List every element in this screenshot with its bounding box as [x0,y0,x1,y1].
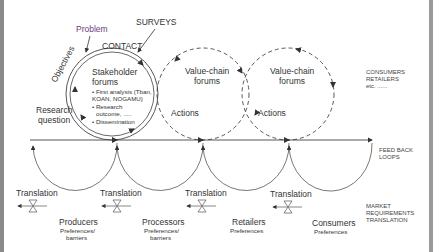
etc-label: etc. ...... [366,83,388,89]
actor-detail: barriers [66,234,87,241]
stakeholder-title-2: forums [92,77,118,87]
translation-label: Translation [16,188,58,198]
translation-valves [18,200,302,213]
actions-label: Actions [171,108,199,118]
value-chain-title-1: Value-chain [185,66,230,76]
actions-label: Actions [258,108,286,118]
market-label-1: MARKET [366,203,391,209]
stakeholder-bullet: • Research [92,103,123,110]
retailers-label: RETAILERS [366,76,399,82]
stakeholder-bullet: • Dissemination [92,118,135,125]
translation-label: Translation [100,188,142,198]
translation-label: Translation [185,188,227,198]
stakeholder-bullet: • First analysis (Tban, [92,88,152,95]
stakeholder-title-1: Stakeholder [92,67,138,77]
stakeholder-bullet: outcome, ..... [96,110,132,117]
actor-name: Retailers [232,217,266,227]
actor-name: Consumers [312,218,355,228]
value-chain-title-2: forums [194,76,220,86]
stakeholder-bullet: KOAN, NOGAMU) [92,95,143,102]
value-chain-cycle-1 [157,48,249,140]
translation-label: Translation [270,189,312,199]
actor-name: Producers [59,217,98,227]
value-chain-title-2: forums [279,76,305,86]
consumers-label: CONSUMERS [366,69,405,75]
actor-detail: Preferences [230,227,263,234]
actor-detail: Preferences/ [144,227,179,234]
research-question-label-1: Research [36,105,73,115]
feedback-loops-label-1: FEED BACK [379,147,413,153]
contact-label: CONTACT [102,41,142,51]
research-process-diagram: Problem SURVEYS CONTACT Objectives Resea… [0,0,433,252]
actor-detail: Preferences [314,228,347,235]
actor-detail: barriers [150,234,171,241]
surveys-label: SURVEYS [136,17,177,27]
problem-arrow [86,36,90,52]
value-chain-cycle-2 [242,48,334,140]
feedback-loops-label-2: LOOPS [379,154,400,160]
feedback-loops [33,143,372,191]
market-label-2: REQUIREMENTS [366,210,414,216]
market-label-3: TRANSLATION [366,217,408,223]
actor-detail: Preferences/ [60,227,95,234]
value-chain-title-1: Value-chain [270,66,315,76]
problem-label: Problem [76,24,108,34]
actor-name: Processors [142,217,185,227]
objectives-label: Objectives [49,44,76,84]
research-question-label-2: question [38,115,70,125]
